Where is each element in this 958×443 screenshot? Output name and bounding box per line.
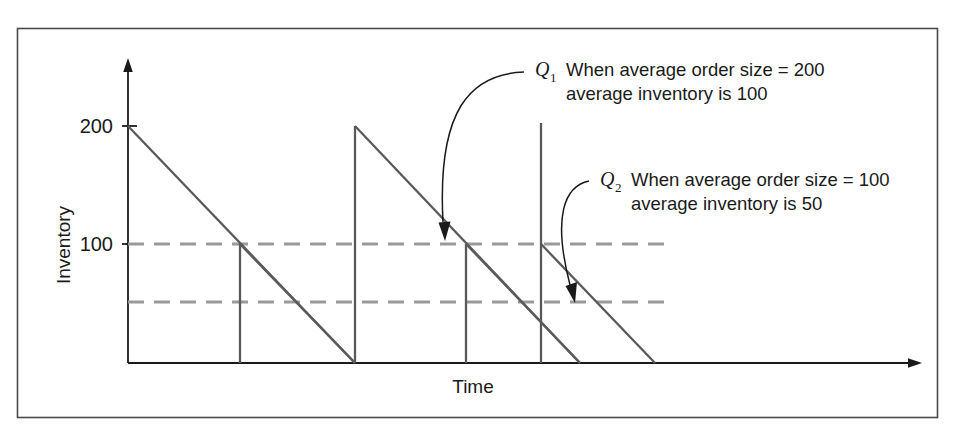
q1-symbol: Q bbox=[535, 58, 550, 80]
q2-subscript: 2 bbox=[615, 180, 622, 195]
x-axis-label: Time bbox=[452, 376, 494, 397]
q1-subscript: 1 bbox=[550, 70, 557, 85]
y-tick-label-200: 200 bbox=[80, 115, 113, 137]
y-axis-label: Inventory bbox=[53, 205, 74, 284]
q2-line1: When average order size = 100 bbox=[631, 169, 890, 190]
q2-symbol: Q bbox=[600, 168, 615, 190]
y-tick-label-100: 100 bbox=[80, 233, 113, 255]
q1-line2: average inventory is 100 bbox=[566, 83, 768, 104]
q2-line2: average inventory is 50 bbox=[631, 193, 822, 214]
chart-canvas: Inventory Time 200 100 Q 1 When average … bbox=[0, 0, 958, 443]
inventory-sawtooth-figure: Inventory Time 200 100 Q 1 When average … bbox=[0, 0, 958, 443]
q1-line1: When average order size = 200 bbox=[566, 59, 825, 80]
